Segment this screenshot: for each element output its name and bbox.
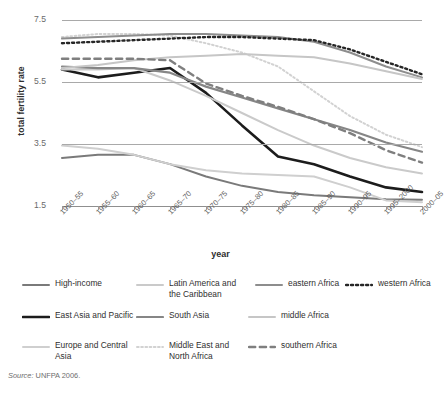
legend-label: western Africa [378, 278, 431, 289]
legend-item[interactable]: High-income [22, 278, 102, 291]
gridline [62, 144, 422, 145]
legend-item[interactable]: Europe and Central Asia [22, 340, 128, 361]
x-axis-title: year [0, 249, 441, 259]
legend-label: East Asia and Pacific [55, 310, 133, 321]
legend-swatch-icon [248, 341, 276, 353]
legend-swatch-icon [136, 279, 164, 291]
series-line [62, 68, 422, 173]
legend-label: Europe and Central Asia [55, 340, 128, 361]
legend-label: Latin America and the Caribbean [169, 278, 236, 299]
source-text: UNFPA 2006. [36, 371, 81, 380]
legend-label: eastern Africa [288, 278, 339, 289]
chart-legend: High-incomeLatin America and the Caribbe… [0, 276, 441, 371]
legend-swatch-icon [136, 341, 164, 353]
legend-item[interactable]: eastern Africa [255, 278, 339, 291]
legend-item[interactable]: Middle East and North Africa [136, 340, 229, 361]
legend-item[interactable]: East Asia and Pacific [22, 310, 133, 323]
legend-label: southern Africa [281, 340, 337, 351]
series-line [62, 67, 422, 152]
legend-item[interactable]: middle Africa [248, 310, 329, 323]
plot-svg [0, 0, 441, 268]
legend-swatch-icon [248, 311, 276, 323]
gridline [62, 82, 422, 83]
source-prefix: Source: [8, 371, 33, 380]
series-line [62, 34, 422, 147]
legend-item[interactable]: southern Africa [248, 340, 337, 353]
legend-swatch-icon [255, 279, 283, 291]
legend-label: middle Africa [281, 310, 329, 321]
legend-label: Middle East and North Africa [169, 340, 229, 361]
legend-swatch-icon [136, 311, 164, 323]
legend-swatch-icon [22, 311, 50, 323]
legend-label: High-income [55, 278, 102, 289]
legend-swatch-icon [22, 341, 50, 353]
legend-swatch-icon [22, 279, 50, 291]
legend-item[interactable]: western Africa [345, 278, 431, 291]
source-note: Source: UNFPA 2006. [8, 371, 80, 380]
legend-item[interactable]: South Asia [136, 310, 209, 323]
legend-swatch-icon [345, 279, 373, 291]
gridline [62, 20, 422, 21]
legend-item[interactable]: Latin America and the Caribbean [136, 278, 236, 299]
legend-label: South Asia [169, 310, 209, 321]
chart-area: total fertility rate 7.55.53.51.5 year 1… [0, 0, 441, 268]
